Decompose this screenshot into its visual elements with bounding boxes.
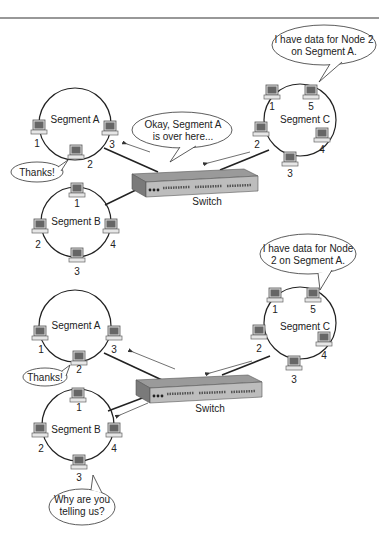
svg-text:Segment B: Segment B <box>51 216 101 227</box>
segment-a-label: Segment A <box>51 114 100 125</box>
svg-text:I have data for Node: I have data for Node <box>263 243 354 254</box>
svg-text:2 on Segment A.: 2 on Segment A. <box>271 255 345 266</box>
switch-device: Switch <box>136 375 262 414</box>
computer-icon <box>69 183 85 197</box>
svg-text:1: 1 <box>269 101 275 112</box>
svg-text:3: 3 <box>111 344 117 355</box>
svg-text:5: 5 <box>308 101 314 112</box>
svg-text:4: 4 <box>319 144 325 155</box>
computer-icon <box>303 85 319 99</box>
node-c5-bubble: I have data for Node 2 on Segment A. <box>260 234 356 290</box>
svg-text:1: 1 <box>272 304 278 315</box>
node-b3-bubble: Why are you telling us? <box>49 475 115 525</box>
svg-text:is over here...: is over here... <box>153 131 214 142</box>
computer-icon <box>71 351 87 365</box>
computer-icon <box>70 388 86 402</box>
svg-text:4: 4 <box>321 350 327 361</box>
svg-text:5: 5 <box>310 304 316 315</box>
computer-icon <box>316 332 332 346</box>
computer-icon <box>106 326 122 340</box>
segment-b-ring: Segment B 1 2 3 4 <box>32 388 122 483</box>
segment-c-ring: Segment C 1 2 3 4 5 <box>253 84 336 179</box>
switch-device: Switch <box>132 169 258 207</box>
svg-text:4: 4 <box>110 239 116 250</box>
svg-text:Thanks!: Thanks! <box>19 167 55 178</box>
computer-icon <box>251 325 267 339</box>
computer-icon <box>102 121 118 135</box>
computer-icon <box>305 288 321 302</box>
svg-text:Why are you: Why are you <box>54 494 110 505</box>
svg-text:3: 3 <box>287 168 293 179</box>
switch-bubble: Okay, Segment A is over here... <box>132 112 232 162</box>
svg-text:1: 1 <box>74 198 80 209</box>
svg-text:Segment B: Segment B <box>51 424 101 435</box>
svg-text:1: 1 <box>34 138 40 149</box>
svg-text:Segment A: Segment A <box>52 320 101 331</box>
computer-icon <box>31 120 47 134</box>
segment-a-ring: Segment A 1 2 3 <box>31 88 118 170</box>
svg-text:Switch: Switch <box>192 196 221 207</box>
computer-icon <box>106 423 122 437</box>
svg-text:2: 2 <box>38 443 44 454</box>
thanks-bubble: Thanks! <box>23 365 70 386</box>
svg-text:2: 2 <box>76 364 82 375</box>
svg-text:Segment C: Segment C <box>280 321 330 332</box>
svg-text:Thanks!: Thanks! <box>27 372 63 383</box>
computer-icon <box>314 128 330 142</box>
svg-text:telling us?: telling us? <box>59 506 104 517</box>
svg-text:3: 3 <box>109 139 115 150</box>
computer-icon <box>253 122 269 136</box>
svg-text:3: 3 <box>291 374 297 385</box>
svg-text:Segment C: Segment C <box>280 114 330 125</box>
switch-segmentation-diagram: Segment A 1 2 3 Thanks! Segment B 1 2 3 … <box>0 0 379 541</box>
computer-icon <box>282 152 298 166</box>
svg-text:Switch: Switch <box>195 403 224 414</box>
segment-c-ring: Segment C 1 2 3 4 5 <box>251 287 336 385</box>
svg-text:I have data for Node 2: I have data for Node 2 <box>275 34 374 45</box>
svg-text:1: 1 <box>76 402 82 413</box>
computer-icon <box>32 423 48 437</box>
node-c5-bubble: I have data for Node 2 on Segment A. <box>272 25 376 82</box>
svg-text:3: 3 <box>74 266 80 277</box>
computer-icon <box>264 85 280 99</box>
svg-text:2: 2 <box>254 139 260 150</box>
computer-icon <box>68 145 84 159</box>
svg-text:4: 4 <box>111 443 117 454</box>
segment-b-ring: Segment B 1 2 3 4 <box>32 183 119 277</box>
svg-text:3: 3 <box>76 472 82 483</box>
computer-icon <box>32 326 48 340</box>
computer-icon <box>286 356 302 370</box>
svg-text:2: 2 <box>87 159 93 170</box>
computer-icon <box>103 219 119 233</box>
computer-icon <box>267 288 283 302</box>
svg-text:2: 2 <box>35 239 41 250</box>
thanks-bubble: Thanks! <box>11 160 68 182</box>
svg-text:Okay, Segment A: Okay, Segment A <box>144 119 221 130</box>
svg-text:2: 2 <box>256 343 262 354</box>
computer-icon <box>71 455 87 469</box>
svg-text:on Segment A.: on Segment A. <box>291 46 357 57</box>
svg-text:1: 1 <box>38 344 44 355</box>
computer-icon <box>69 248 85 262</box>
panel-2: Segment A 1 2 3 Thanks! Segment B 1 2 3 … <box>23 234 356 525</box>
segment-a-ring: Segment A 1 2 3 <box>32 290 122 375</box>
computer-icon <box>32 219 48 233</box>
